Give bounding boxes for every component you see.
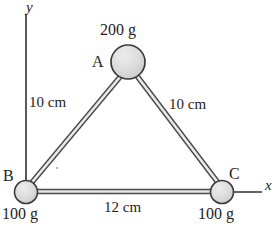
dimension-label-bc: 12 cm — [104, 200, 141, 215]
node-circle-c — [211, 181, 234, 204]
mass-label-b: 100 g — [2, 206, 38, 222]
diagram-canvas — [0, 0, 280, 232]
node-circle-b — [15, 181, 38, 204]
x-axis-label: x — [265, 178, 272, 193]
node-label-a: A — [92, 54, 104, 70]
node-circle-a — [111, 45, 145, 79]
rod-ac — [137, 76, 219, 184]
y-axis-label: y — [26, 0, 33, 15]
physics-diagram-figure: y x A B C 200 g 100 g 100 g 10 cm 10 cm … — [0, 0, 280, 232]
nodes-group — [15, 45, 234, 204]
scan-speck — [56, 167, 58, 169]
mass-label-a: 200 g — [100, 22, 136, 38]
node-label-c: C — [229, 166, 240, 182]
dimension-label-ac: 10 cm — [169, 97, 206, 112]
node-label-b: B — [3, 168, 14, 184]
mass-label-c: 100 g — [198, 206, 234, 222]
dimension-label-ab: 10 cm — [29, 95, 66, 110]
